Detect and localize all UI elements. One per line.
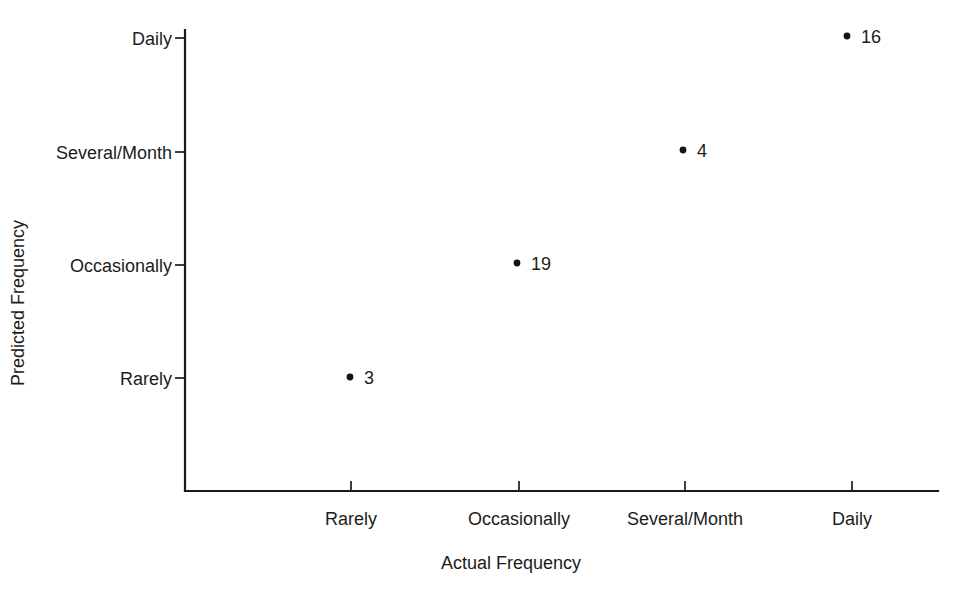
x-tick-label-several-month: Several/Month [627,509,743,529]
y-tick-label-daily: Daily [132,29,172,49]
data-point-marker-several-month [680,147,687,154]
plot-area: Daily Several/Month Occasionally Rarely … [0,0,960,594]
scatter-chart: Daily Several/Month Occasionally Rarely … [0,0,960,594]
y-tick-label-rarely: Rarely [120,369,172,389]
x-tick-label-daily: Daily [832,509,872,529]
data-point-label-rarely: 3 [364,368,374,388]
data-point-marker-occasionally [514,260,521,267]
y-tick-label-several-month: Several/Month [56,143,172,163]
x-axis-title: Actual Frequency [441,553,581,573]
data-point-label-daily: 16 [861,27,881,47]
data-point-marker-rarely [347,374,354,381]
y-axis-title: Predicted Frequency [8,220,28,386]
data-point-marker-daily [844,33,851,40]
data-point-label-occasionally: 19 [531,254,551,274]
x-tick-label-occasionally: Occasionally [468,509,570,529]
data-point-label-several-month: 4 [697,141,707,161]
y-tick-label-occasionally: Occasionally [70,256,172,276]
x-tick-label-rarely: Rarely [325,509,377,529]
